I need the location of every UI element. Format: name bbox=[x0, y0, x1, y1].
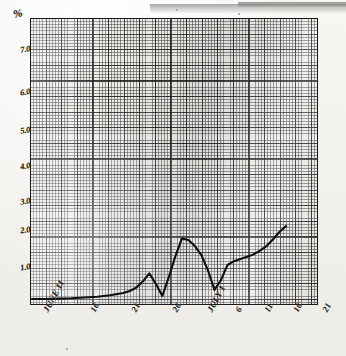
chart-plot-area bbox=[30, 18, 318, 305]
paper-speck bbox=[66, 348, 68, 350]
paper-speck bbox=[176, 9, 178, 11]
paper-speck bbox=[238, 13, 240, 15]
scan-smudge-top-edge bbox=[238, 2, 346, 7]
series-polyline bbox=[32, 226, 286, 299]
data-series-line bbox=[30, 18, 318, 305]
